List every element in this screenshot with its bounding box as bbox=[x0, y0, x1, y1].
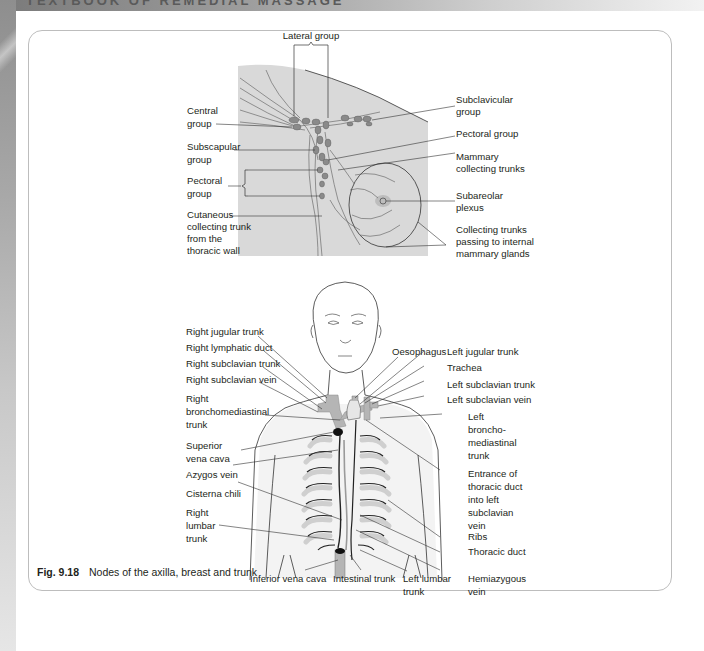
svg-text:from the: from the bbox=[187, 233, 222, 244]
figure-caption: Fig. 9.18Nodes of the axilla, breast and… bbox=[37, 566, 257, 578]
label-entrance-thoracic-duct-5: vein bbox=[468, 520, 486, 531]
label-right-lumbar-3: trunk bbox=[186, 533, 208, 544]
label-entrance-thoracic-duct-2: thoracic duct bbox=[468, 481, 523, 492]
label-left-subclavian-vein: Left subclavian vein bbox=[447, 394, 531, 405]
label-mammary-trunks-2: collecting trunks bbox=[456, 163, 525, 174]
svg-text:Cutaneous: Cutaneous bbox=[187, 209, 234, 220]
label-cutaneous-2: collecting trunk bbox=[187, 221, 251, 232]
label-oesophagus: Oesophagus bbox=[392, 346, 447, 357]
label-left-bronchomediastinal-1: Left bbox=[468, 411, 484, 422]
axilla-breast-diagram: Lateral group Central group Subscapular … bbox=[187, 30, 534, 259]
label-left-subclavian-trunk: Left subclavian trunk bbox=[447, 379, 535, 390]
label-right-jugular-trunk: Right jugular trunk bbox=[186, 326, 264, 337]
label-pectoral-group-left-2: group bbox=[187, 188, 212, 199]
figure-number: Fig. 9.18 bbox=[37, 566, 79, 578]
label-hemiazygous-1: Hemiazygous bbox=[468, 573, 526, 584]
label-right-bronchomediastinal-1: Right bbox=[186, 393, 209, 404]
label-cutaneous-3: from the bbox=[187, 233, 222, 244]
label-subscapular-group-2: group bbox=[187, 154, 212, 165]
label-entrance-thoracic-duct-4: subclavian bbox=[468, 507, 513, 518]
label-collecting-internal-1: Collecting trunks bbox=[456, 224, 527, 235]
label-left-lumbar-2: trunk bbox=[403, 586, 425, 597]
label-right-lumbar-1: Right bbox=[186, 507, 209, 518]
label-right-subclavian-trunk: Right subclavian trunk bbox=[186, 358, 281, 369]
svg-text:group: group bbox=[187, 188, 212, 199]
label-superior-vena-cava-2: vena cava bbox=[186, 453, 230, 464]
svg-text:collecting trunk: collecting trunk bbox=[187, 221, 251, 232]
label-entrance-thoracic-duct-3: into left bbox=[468, 494, 499, 505]
trunk-diagram: Right jugular trunk Right lymphatic duct… bbox=[186, 282, 535, 597]
label-central-group-1: Central bbox=[187, 105, 218, 116]
label-cutaneous-1: Cutaneous bbox=[187, 209, 234, 220]
label-left-jugular-trunk: Left jugular trunk bbox=[447, 346, 519, 357]
label-pectoral-group-right: Pectoral group bbox=[456, 128, 518, 139]
svg-text:group: group bbox=[187, 118, 212, 129]
label-right-lymphatic-duct: Right lymphatic duct bbox=[186, 342, 273, 353]
label-right-subclavian-vein: Right subclavian vein bbox=[186, 374, 277, 385]
label-intestinal-trunk: Intestinal trunk bbox=[333, 573, 396, 584]
label-superior-vena-cava-1: Superior bbox=[186, 440, 223, 451]
figure-illustration: Lateral group Central group Subscapular … bbox=[0, 0, 704, 651]
label-left-lumbar-1: Left lumbar bbox=[403, 573, 452, 584]
label-hemiazygous-2: vein bbox=[468, 586, 486, 597]
label-trachea: Trachea bbox=[447, 362, 483, 373]
label-collecting-internal-3: mammary glands bbox=[456, 248, 530, 259]
label-subareolar-1: Subareolar bbox=[456, 190, 504, 201]
label-inferior-vena-cava: Inferior vena cava bbox=[250, 573, 327, 584]
label-pectoral-group-left-1: Pectoral bbox=[187, 175, 222, 186]
label-cutaneous-4: thoracic wall bbox=[187, 245, 240, 256]
label-subclavicular-group-1: Subclavicular bbox=[456, 94, 514, 105]
label-left-bronchomediastinal-2: broncho- bbox=[468, 424, 506, 435]
svg-text:Subscapular: Subscapular bbox=[187, 141, 241, 152]
svg-text:group: group bbox=[187, 154, 212, 165]
label-left-bronchomediastinal-3: mediastinal bbox=[468, 437, 517, 448]
label-central-group-2: group bbox=[187, 118, 212, 129]
label-mammary-trunks-1: Mammary bbox=[456, 151, 499, 162]
label-subclavicular-group-2: group bbox=[456, 106, 481, 117]
label-entrance-thoracic-duct-1: Entrance of bbox=[468, 468, 517, 479]
figure-caption-text: Nodes of the axilla, breast and trunk bbox=[89, 566, 257, 578]
label-collecting-internal-2: passing to internal bbox=[456, 236, 534, 247]
label-ribs: Ribs bbox=[468, 531, 487, 542]
svg-text:Central: Central bbox=[187, 105, 218, 116]
label-azygos-vein: Azygos vein bbox=[186, 469, 238, 480]
label-right-lumbar-2: lumbar bbox=[186, 520, 216, 531]
label-right-bronchomediastinal-3: trunk bbox=[186, 419, 208, 430]
label-lateral-group: Lateral group bbox=[283, 30, 340, 41]
label-right-bronchomediastinal-2: bronchomediastinal bbox=[186, 406, 269, 417]
label-left-bronchomediastinal-4: trunk bbox=[468, 450, 490, 461]
label-cisterna-chili: Cisterna chili bbox=[186, 488, 241, 499]
svg-text:Pectoral: Pectoral bbox=[187, 175, 222, 186]
label-subareolar-2: plexus bbox=[456, 202, 484, 213]
label-subscapular-group-1: Subscapular bbox=[187, 141, 241, 152]
svg-text:thoracic wall: thoracic wall bbox=[187, 245, 240, 256]
label-thoracic-duct: Thoracic duct bbox=[468, 546, 526, 557]
